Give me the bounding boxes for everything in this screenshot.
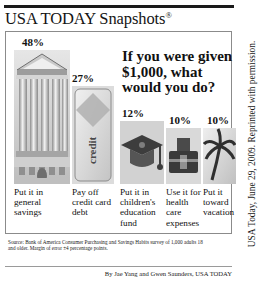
category-label: Put it in children's education fund xyxy=(120,187,164,228)
category-label: Put it in general savings xyxy=(14,187,56,218)
category-label: Pay off credit card debt xyxy=(72,187,116,218)
svg-text:credit: credit xyxy=(86,136,98,164)
palm-tree-icon xyxy=(203,128,236,184)
top-rule xyxy=(4,5,234,8)
category-label: Use it for health care expenses xyxy=(166,187,202,228)
value-label: 27% xyxy=(72,72,94,84)
graduation-cap-icon xyxy=(120,121,164,184)
value-label: 12% xyxy=(122,107,144,119)
page-title: USA TODAY Snapshots® xyxy=(5,9,172,29)
medical-kit-icon xyxy=(166,128,201,184)
chart-headline: If you were given $1,000, what would you… xyxy=(122,49,234,96)
byline-divider xyxy=(5,266,232,267)
reprint-credit: USA Today, June 29, 2009. Reprinted with… xyxy=(238,0,265,287)
source-note: Source: Bank of America Consumer Purchas… xyxy=(8,239,203,252)
value-label: 10% xyxy=(207,114,229,126)
category-label: Put it toward vacation xyxy=(203,187,237,218)
registered-trademark-icon: ® xyxy=(165,10,171,20)
logo-text: USA TODAY Snapshots xyxy=(5,9,165,28)
credit-card-icon: credit xyxy=(72,86,114,184)
reprint-credit-text: USA Today, June 29, 2009. Reprinted with… xyxy=(247,40,257,247)
value-label: 10% xyxy=(169,114,191,126)
chart-panel: If you were given $1,000, what would you… xyxy=(5,31,232,234)
byline: By Jae Yang and Gwen Saunders, USA TODAY xyxy=(5,270,232,277)
usa-today-snapshot: USA TODAY Snapshots® If you were given $… xyxy=(0,0,238,287)
value-label: 48% xyxy=(22,36,44,48)
bank-building-icon xyxy=(14,50,70,184)
